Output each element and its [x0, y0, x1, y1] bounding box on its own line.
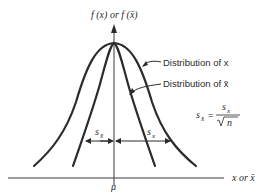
label-s-x: s x — [147, 126, 156, 140]
y-axis-arrow-icon — [111, 24, 117, 33]
label-s-xbar: s x̄ — [95, 126, 104, 140]
x-axis-label: x or x̄ — [231, 172, 255, 183]
spread-arrow-s-x-left-head-icon — [115, 138, 121, 144]
svg-text:x: x — [151, 132, 156, 140]
standard-error-formula: s x̄ = s x n — [196, 101, 240, 128]
svg-text:=: = — [208, 109, 214, 120]
sampling-distribution-diagram: f (x) or f (x̄) Distribution of x Distri… — [0, 0, 265, 196]
y-axis-label: f (x) or f (x̄) — [91, 9, 138, 21]
svg-text:x̄: x̄ — [200, 115, 205, 123]
svg-text:s: s — [222, 101, 226, 112]
svg-text:s: s — [95, 126, 99, 137]
callout-distribution-x: Distribution of x — [163, 57, 229, 68]
callout-arrowhead-x-icon — [142, 61, 148, 67]
svg-text:s: s — [196, 109, 200, 120]
callout-distribution-xbar: Distribution of x̄ — [163, 78, 229, 89]
svg-text:s: s — [147, 126, 151, 137]
svg-text:n: n — [227, 117, 232, 128]
svg-text:x̄: x̄ — [99, 132, 104, 140]
mean-label: μ — [110, 181, 116, 192]
svg-text:x: x — [226, 107, 231, 115]
